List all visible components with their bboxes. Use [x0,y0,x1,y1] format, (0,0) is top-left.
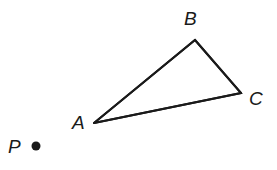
point-p-dot [32,142,41,151]
canvas-background [0,0,277,170]
geometry-figure: A B C P [0,0,277,170]
point-label-p: P [8,137,21,156]
vertex-label-c: C [249,89,263,108]
figure-canvas [0,0,277,170]
vertex-label-a: A [72,113,85,132]
vertex-label-b: B [184,9,197,28]
